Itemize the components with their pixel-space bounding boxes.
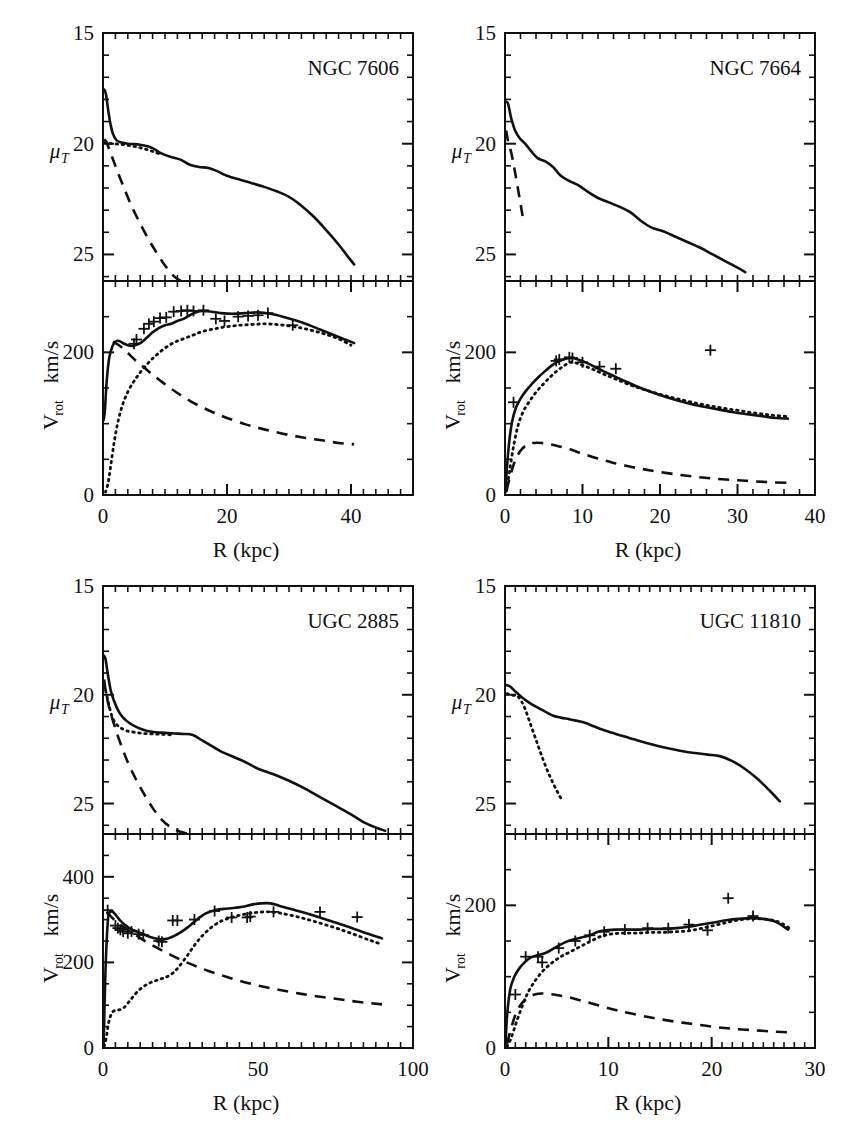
- data-point-marker: [352, 912, 363, 923]
- data-point-marker: [610, 363, 621, 374]
- scatter-points: [102, 905, 363, 948]
- y-axis-units: km/s: [440, 341, 465, 384]
- x-axis-title: R (kpc): [615, 1090, 682, 1115]
- y-axis-title-vrot: Vrotkm/s: [38, 894, 66, 983]
- y-tick-label: 0: [486, 483, 497, 507]
- data-point-marker: [510, 989, 521, 1000]
- x-tick-label: 0: [500, 1057, 511, 1081]
- curve-solid: [104, 903, 382, 1045]
- y-axis-title-vrot: Vrotkm/s: [440, 894, 468, 983]
- plot-frame: [505, 834, 815, 1048]
- panel-title-galaxy-name: UGC 11810: [700, 609, 801, 633]
- y-tick-label: 200: [465, 340, 497, 364]
- x-tick-label: 100: [397, 1057, 429, 1081]
- y-tick-label: 20: [475, 683, 496, 707]
- data-layer: [506, 685, 780, 801]
- panel-title-galaxy-name: NGC 7606: [307, 56, 399, 80]
- curve-dashed: [507, 443, 788, 491]
- plot-panel-ugc11810-sb: 152025μTUGC 11810: [451, 574, 815, 834]
- y-axis-title-v-subscript: rot: [453, 953, 468, 969]
- plot-panel-ngc7606-rc: 020002040R (kpc)Vrotkm/s: [38, 281, 413, 562]
- plot-frame: [505, 281, 815, 495]
- data-point-marker: [520, 951, 531, 962]
- y-tick-label: 0: [486, 1036, 497, 1060]
- y-axis-title-v-subscript: rot: [51, 400, 66, 416]
- y-tick-label: 25: [73, 792, 94, 816]
- x-tick-label: 20: [650, 504, 671, 528]
- y-axis-title-mu-subscript: T: [463, 151, 472, 166]
- plot-panel-ngc7664-rc: 0200010203040R (kpc)Vrotkm/s: [440, 281, 826, 562]
- data-point-marker: [198, 305, 209, 316]
- curve-solid: [104, 656, 385, 831]
- x-axis-title: R (kpc): [615, 537, 682, 562]
- y-axis-title-v-subscript: rot: [453, 400, 468, 416]
- x-tick-label: 0: [98, 1057, 109, 1081]
- curve-solid: [505, 358, 787, 492]
- plot-panel-ugc11810-rc: 02000102030R (kpc)Vrotkm/s: [440, 834, 826, 1115]
- data-layer: [506, 893, 790, 1047]
- curve-dashed: [113, 342, 354, 445]
- panel-title-galaxy-name: NGC 7664: [709, 56, 801, 80]
- y-tick-label: 400: [63, 865, 95, 889]
- curve-dotted: [507, 919, 789, 1047]
- curve-dotted: [105, 324, 351, 492]
- y-tick-label: 15: [73, 574, 94, 598]
- data-point-marker: [226, 912, 237, 923]
- curve-dashed: [507, 994, 789, 1044]
- y-tick-label: 0: [84, 483, 95, 507]
- curve-solid: [104, 89, 354, 264]
- x-axis-title: R (kpc): [213, 537, 280, 562]
- curve-dashed: [104, 680, 188, 834]
- data-point-marker: [143, 318, 154, 329]
- y-tick-label: 25: [475, 242, 496, 266]
- x-tick-label: 10: [572, 504, 593, 528]
- y-axis-title-mu: μ: [49, 690, 61, 714]
- x-tick-label: 0: [98, 504, 109, 528]
- data-point-marker: [209, 906, 220, 917]
- data-layer: [104, 89, 354, 281]
- y-tick-label: 20: [73, 683, 94, 707]
- panel-title-galaxy-name: UGC 2885: [307, 609, 399, 633]
- x-tick-label: 50: [248, 1057, 269, 1081]
- y-tick-label: 200: [63, 950, 95, 974]
- y-axis-title-mu-subscript: T: [61, 702, 70, 717]
- y-axis-title-mu: μ: [451, 139, 463, 163]
- x-tick-label: 40: [805, 504, 826, 528]
- data-point-marker: [705, 345, 716, 356]
- curve-dashed: [107, 912, 382, 1004]
- y-axis-title-vrot: Vrotkm/s: [38, 341, 66, 430]
- data-point-marker: [138, 323, 149, 334]
- x-tick-label: 30: [727, 504, 748, 528]
- data-point-marker: [262, 308, 273, 319]
- data-layer: [102, 903, 382, 1046]
- y-tick-label: 15: [73, 21, 94, 45]
- y-tick-label: 200: [465, 893, 497, 917]
- curve-dotted: [507, 362, 788, 491]
- y-axis-units: km/s: [440, 894, 465, 937]
- data-point-marker: [723, 893, 734, 904]
- curve-dotted: [104, 912, 382, 1046]
- y-axis-title-mu: μ: [451, 690, 463, 714]
- axis-ticks: [505, 281, 815, 495]
- x-tick-label: 30: [805, 1057, 826, 1081]
- plot-panel-ugc2885-rc: 0200400050100R (kpc)Vrotkm/s: [38, 834, 429, 1115]
- curve-solid: [506, 685, 780, 801]
- y-axis-units: km/s: [38, 894, 63, 937]
- plot-panel-ngc7606-sb: 152025μTNGC 7606: [49, 21, 413, 281]
- curve-solid: [506, 918, 789, 1045]
- data-layer: [104, 656, 385, 834]
- data-point-marker: [161, 312, 172, 323]
- curve-dashed: [104, 139, 181, 281]
- plot-panel-ugc2885-sb: 152025μTUGC 2885: [49, 574, 413, 834]
- plot-frame: [103, 834, 413, 1048]
- y-tick-label: 25: [475, 792, 496, 816]
- x-tick-label: 20: [217, 504, 238, 528]
- data-layer: [506, 102, 745, 273]
- y-axis-title-mu: μ: [49, 139, 61, 163]
- curve-solid: [506, 102, 745, 273]
- plot-panel-ngc7664-sb: 152025μTNGC 7664: [451, 21, 815, 281]
- y-tick-label: 20: [475, 132, 496, 156]
- scatter-points: [510, 893, 759, 1000]
- y-tick-label: 0: [84, 1036, 95, 1060]
- y-axis-units: km/s: [38, 341, 63, 384]
